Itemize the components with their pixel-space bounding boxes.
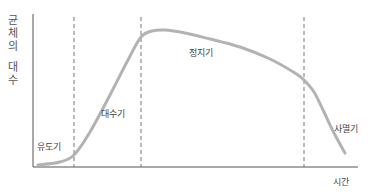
y-label-char: 균 (5, 14, 21, 27)
y-label-char: 수 (5, 74, 21, 87)
y-label-char: 체 (5, 27, 21, 40)
phase-label-death: 사멸기 (334, 122, 358, 135)
phase-label-stationary: 정지기 (189, 46, 213, 59)
phase-label-lag: 유도기 (37, 140, 61, 153)
y-label-char: 대 (5, 61, 21, 74)
y-axis-label: 균 체 의 대 수 (5, 14, 21, 87)
phase-label-log: 대수기 (101, 107, 125, 120)
growth-curve-chart (0, 0, 377, 195)
phase-boundaries (74, 17, 304, 167)
x-axis-label: 시간 (333, 175, 349, 188)
y-label-char: 의 (5, 40, 21, 53)
